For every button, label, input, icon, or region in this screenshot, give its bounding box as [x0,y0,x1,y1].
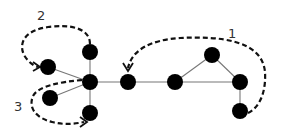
traversal-paths [22,26,265,127]
node-top-right [204,47,220,63]
node-bottom-right [232,103,248,119]
graph-diagram: 1 2 3 [0,0,282,133]
node-left-lower [42,90,58,106]
node-bottom [82,105,98,121]
path-label-2: 2 [37,8,45,23]
node-right-a [167,74,183,90]
node-left-upper [40,59,56,75]
node-middle [120,74,136,90]
path-1 [128,38,265,113]
path-label-1: 1 [228,26,236,41]
node-hub [82,74,98,90]
path-label-3: 3 [14,99,22,114]
node-right-b [232,74,248,90]
path-2 [22,26,90,67]
path-3 [32,80,84,124]
node-top [82,44,98,60]
